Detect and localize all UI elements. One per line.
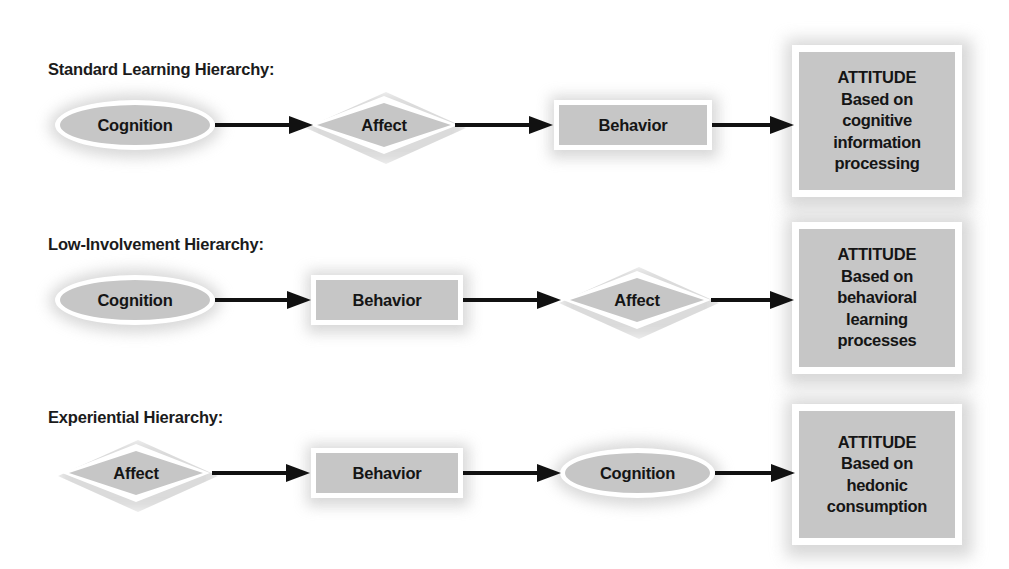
attitude-line: information <box>833 132 920 153</box>
node-behavior-row3: Behavior <box>311 448 463 498</box>
arrow-row3-1 <box>212 463 312 483</box>
attitude-text: ATTITUDE Based on cognitive information … <box>829 67 924 174</box>
attitude-box-row3: ATTITUDE Based on hedonic consumption <box>792 404 962 545</box>
node-behavior-row1: Behavior <box>554 100 712 150</box>
node-label: Affect <box>361 116 407 135</box>
node-label: Cognition <box>600 464 675 483</box>
attitude-box-row2: ATTITUDE Based on behavioral learning pr… <box>792 222 962 374</box>
arrow-row1-3 <box>712 115 796 135</box>
node-label: Cognition <box>97 116 172 135</box>
attitude-box-row1: ATTITUDE Based on cognitive information … <box>792 45 962 197</box>
row-label-standard-learning-hierarchy: Standard Learning Hierarchy: <box>48 60 274 79</box>
attitude-line: hedonic <box>827 475 927 496</box>
node-cognition-row3: Cognition <box>560 448 715 498</box>
node-affect-row2: Affect <box>563 271 711 329</box>
arrow-row3-2 <box>463 463 563 483</box>
attitude-line: consumption <box>827 496 927 517</box>
node-cognition-row2: Cognition <box>55 275 215 325</box>
attitude-line: Based on <box>837 266 917 287</box>
attitude-text: ATTITUDE Based on behavioral learning pr… <box>833 244 921 351</box>
node-affect-row1: Affect <box>310 96 458 154</box>
arrow-row2-1 <box>215 290 313 310</box>
arrow-row2-2 <box>463 290 563 310</box>
arrow-row3-3 <box>715 463 797 483</box>
attitude-fill: ATTITUDE Based on behavioral learning pr… <box>792 222 962 374</box>
node-label: Behavior <box>352 291 421 310</box>
attitude-heading: ATTITUDE <box>833 67 920 88</box>
node-affect-row3: Affect <box>62 444 210 502</box>
attitude-fill: ATTITUDE Based on cognitive information … <box>792 45 962 197</box>
attitude-line: processes <box>837 330 917 351</box>
attitude-line: learning <box>837 309 917 330</box>
arrow-row1-2 <box>455 115 555 135</box>
row-label-experiential-hierarchy: Experiential Hierarchy: <box>48 408 223 427</box>
arrow-row2-3 <box>711 290 796 310</box>
attitude-text: ATTITUDE Based on hedonic consumption <box>823 432 931 518</box>
node-label: Affect <box>614 291 660 310</box>
node-label: Behavior <box>352 464 421 483</box>
attitude-heading: ATTITUDE <box>827 432 927 453</box>
node-label: Affect <box>113 464 159 483</box>
hierarchies-of-effects-diagram: Standard Learning Hierarchy: Cognition A… <box>0 0 1009 569</box>
attitude-line: cognitive <box>833 110 920 131</box>
row-label-low-involvement-hierarchy: Low-Involvement Hierarchy: <box>48 235 264 254</box>
node-label: Cognition <box>97 291 172 310</box>
attitude-line: Based on <box>833 89 920 110</box>
attitude-line: processing <box>833 153 920 174</box>
attitude-line: Based on <box>827 453 927 474</box>
attitude-line: behavioral <box>837 287 917 308</box>
attitude-fill: ATTITUDE Based on hedonic consumption <box>792 404 962 545</box>
node-behavior-row2: Behavior <box>311 275 463 325</box>
arrow-row1-1 <box>215 115 315 135</box>
node-label: Behavior <box>598 116 667 135</box>
node-cognition-row1: Cognition <box>55 100 215 150</box>
attitude-heading: ATTITUDE <box>837 244 917 265</box>
